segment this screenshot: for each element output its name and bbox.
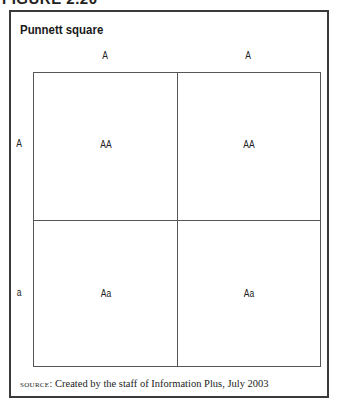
figure-label: FIGURE 2.20 [2, 0, 98, 7]
figure-title: Punnett square [20, 22, 103, 37]
grid-horizontal-divider [34, 220, 320, 221]
cell-genotype: Aa [236, 288, 262, 299]
cell-genotype: AA [93, 139, 119, 150]
source-note: source: Created by the staff of Informat… [20, 378, 269, 389]
column-allele-1: A [97, 50, 114, 61]
row-allele-2: a [14, 287, 24, 298]
source-text: Created by the staff of Information Plus… [55, 378, 269, 389]
cell-genotype: Aa [93, 288, 119, 299]
punnett-grid: AA AA Aa Aa [33, 72, 321, 367]
source-prefix: source: [20, 379, 52, 389]
cell-genotype: AA [236, 139, 262, 150]
row-allele-1: A [14, 138, 24, 149]
column-allele-2: A [240, 50, 257, 61]
